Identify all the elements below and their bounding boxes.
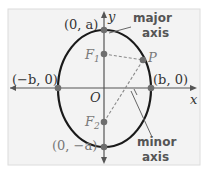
origin-label: O bbox=[90, 90, 101, 105]
vertex-top-label: (0, a) bbox=[64, 17, 98, 32]
focus-f1-point bbox=[101, 51, 108, 58]
covertex-left-label: (−b, 0) bbox=[12, 72, 58, 87]
vertex-bottom-label: (0, −a) bbox=[52, 138, 97, 153]
y-axis-label: y bbox=[107, 9, 116, 24]
x-axis-label: x bbox=[190, 92, 198, 107]
minor-axis-label-line2: axis bbox=[142, 150, 169, 164]
ellipse-diagram: y x O (0, a) (0, −a) (−b, 0) (b, 0) F1 F… bbox=[0, 0, 209, 172]
major-axis-label-line1: major bbox=[133, 11, 172, 25]
covertex-right-label: (b, 0) bbox=[153, 72, 188, 87]
minor-axis-label-line1: minor bbox=[137, 135, 176, 149]
vertex-top-point bbox=[101, 27, 108, 34]
focus-f2-point bbox=[101, 119, 108, 126]
major-axis-label-line2: axis bbox=[142, 26, 169, 40]
point-p-label: P bbox=[147, 50, 157, 65]
vertex-bottom-point bbox=[101, 144, 108, 151]
point-p bbox=[140, 57, 147, 64]
